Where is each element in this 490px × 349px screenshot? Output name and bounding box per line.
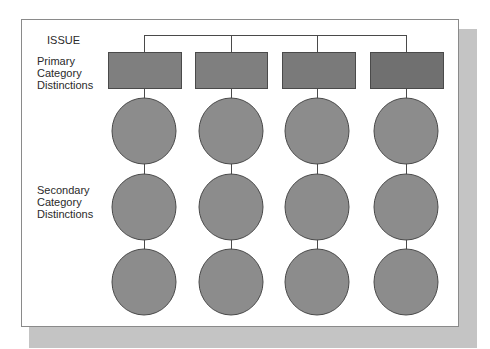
secondary-node — [285, 98, 349, 164]
secondary-node — [112, 98, 176, 164]
secondary-node — [199, 174, 263, 240]
primary-box-3 — [283, 53, 356, 89]
secondary-node — [374, 98, 438, 164]
secondary-node — [285, 174, 349, 240]
primary-box-4 — [371, 53, 444, 89]
secondary-node — [374, 249, 438, 315]
secondary-nodes — [112, 98, 438, 315]
connector-lines — [144, 35, 407, 250]
primary-box-2 — [196, 53, 268, 89]
secondary-node — [112, 174, 176, 240]
secondary-node — [112, 249, 176, 315]
hierarchy-diagram — [0, 0, 490, 349]
primary-boxes — [109, 53, 444, 89]
secondary-node — [285, 249, 349, 315]
secondary-node — [374, 174, 438, 240]
primary-box-1 — [109, 53, 182, 89]
secondary-node — [199, 98, 263, 164]
secondary-node — [199, 249, 263, 315]
